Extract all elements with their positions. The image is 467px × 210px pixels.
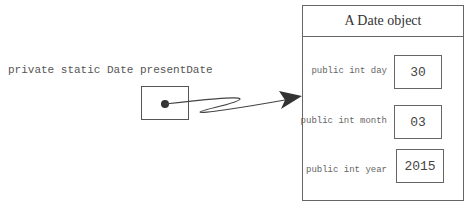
field-label-day: public int day: [297, 66, 387, 76]
object-title: A Date object: [302, 5, 464, 37]
field-value-day: 30: [394, 55, 442, 89]
field-value-year: 2015: [396, 149, 444, 183]
field-label-month: public int month: [297, 116, 387, 126]
field-value-month: 03: [394, 105, 442, 139]
field-label-year: public int year: [297, 165, 387, 175]
